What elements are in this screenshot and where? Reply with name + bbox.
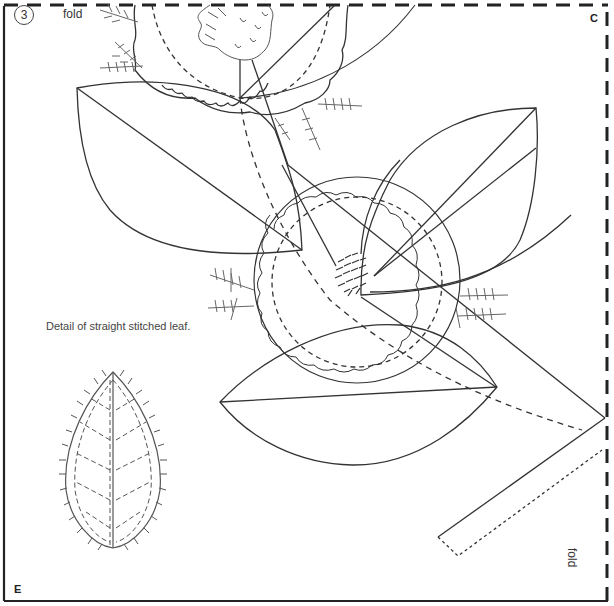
detail-leaf [59, 370, 167, 550]
center-flower [254, 148, 571, 387]
leaf-right [361, 108, 537, 295]
detail-caption: Detail of straight stitched leaf. [46, 320, 190, 332]
fold-label-right: fold [565, 548, 579, 578]
leaf-bottom [220, 325, 497, 465]
step-number-badge: 3 [14, 5, 34, 25]
fern-sprigs [100, 4, 508, 328]
fold-label-top: fold [63, 7, 82, 21]
stem-ribbon [240, 98, 605, 556]
corner-label-c: C [590, 12, 598, 24]
pattern-drawing [0, 0, 614, 606]
top-flower [133, 5, 415, 165]
corner-label-e: E [14, 583, 21, 595]
page-border [4, 5, 608, 601]
top-flower-center [198, 5, 273, 60]
